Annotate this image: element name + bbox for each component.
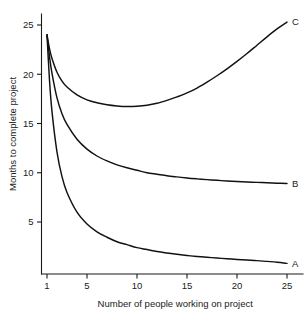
series-annotations: ABC (292, 16, 299, 268)
curve-c (47, 22, 287, 107)
series-label-a: A (292, 258, 299, 269)
x-tick-label: 20 (232, 280, 243, 291)
series-label-b: B (292, 178, 298, 189)
curve-b (47, 35, 287, 184)
series-label-c: C (292, 16, 299, 27)
x-tick-label: 1 (44, 280, 49, 291)
x-axis-ticks: 1510152025 (44, 274, 292, 291)
x-tick-label: 25 (282, 280, 293, 291)
y-tick-label: 15 (23, 118, 34, 129)
y-axis-ticks: 510152025 (23, 19, 42, 227)
data-curves (47, 22, 287, 263)
curve-a (47, 35, 287, 264)
y-axis-title: Months to complete project (7, 77, 18, 191)
chart-figure: 510152025 1510152025 ABC Number of peopl… (0, 0, 307, 319)
line-chart: 510152025 1510152025 ABC Number of peopl… (0, 0, 307, 319)
y-tick-label: 5 (28, 216, 33, 227)
x-axis-title: Number of people working on project (98, 298, 254, 309)
x-tick-label: 5 (84, 280, 89, 291)
y-tick-label: 10 (23, 167, 34, 178)
y-tick-label: 20 (23, 69, 34, 80)
x-tick-label: 10 (132, 280, 143, 291)
y-tick-label: 25 (23, 19, 34, 30)
x-tick-label: 15 (182, 280, 193, 291)
